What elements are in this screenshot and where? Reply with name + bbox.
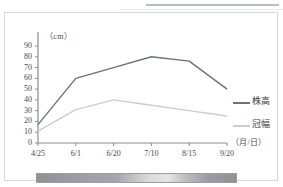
y-tick-label: 50 — [18, 85, 32, 93]
y-tick-label: 40 — [18, 96, 32, 104]
x-tick-label: 6/1 — [63, 150, 89, 158]
y-tick-label: 90 — [18, 42, 32, 50]
chart-card: （cm） 0102030405060708090 4/256/16/207/10… — [4, 12, 278, 181]
y-tick-label: 10 — [18, 128, 32, 136]
y-tick-label: 70 — [18, 64, 32, 72]
legend-item-label: 株高 — [252, 97, 270, 106]
y-tick-label: 80 — [18, 53, 32, 61]
y-tick-label: 30 — [18, 107, 32, 115]
top-divider-rule — [146, 4, 279, 6]
top-divider-rule-secondary — [120, 9, 283, 10]
x-tick-label: 6/20 — [101, 150, 127, 158]
x-tick-label: 8/15 — [176, 150, 202, 158]
x-tick-label: 9/20 — [214, 150, 240, 158]
x-tick-label: 4/25 — [25, 150, 51, 158]
legend-item-label: 冠幅 — [252, 120, 270, 129]
x-tick-label: 7/10 — [138, 150, 164, 158]
y-tick-label: 60 — [18, 74, 32, 82]
x-axis-unit-label: （月/日） — [231, 139, 266, 147]
screenshot-root: （cm） 0102030405060708090 4/256/16/207/10… — [0, 0, 283, 187]
y-axis-unit-label: （cm） — [45, 33, 72, 41]
legend-color-swatch — [233, 125, 250, 127]
y-tick-label: 20 — [18, 117, 32, 125]
timeline-gradient-bar — [36, 173, 237, 183]
y-tick-label: 0 — [18, 139, 32, 147]
series-line-kabutaka — [38, 100, 227, 131]
legend-color-swatch — [233, 102, 250, 104]
